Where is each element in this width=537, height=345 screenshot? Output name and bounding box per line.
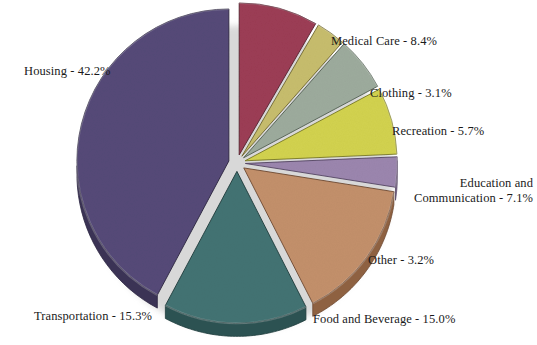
pie-label-clothing: Clothing - 3.1%: [370, 86, 452, 101]
pie-label-line: Clothing - 3.1%: [370, 86, 452, 101]
pie-label-line: Recreation - 5.7%: [392, 124, 484, 139]
pie-label-line: Transportation - 15.3%: [34, 309, 152, 324]
pie-label-education-and-communication: Education andCommunication - 7.1%: [414, 176, 533, 207]
pie-label-line: Other - 3.2%: [368, 253, 434, 268]
pie-label-line: Housing - 42.2%: [24, 64, 111, 79]
pie-label-line: Food and Beverage - 15.0%: [313, 312, 455, 327]
pie-chart-page: Medical Care - 8.4%Clothing - 3.1%Recrea…: [0, 0, 537, 345]
pie-label-food-and-beverage: Food and Beverage - 15.0%: [313, 312, 455, 327]
pie-label-line: Medical Care - 8.4%: [331, 34, 437, 49]
pie-label-recreation: Recreation - 5.7%: [392, 124, 484, 139]
pie-chart-svg: [0, 0, 537, 345]
pie-label-housing: Housing - 42.2%: [24, 64, 111, 79]
pie-label-medical-care: Medical Care - 8.4%: [331, 34, 437, 49]
pie-label-transportation: Transportation - 15.3%: [34, 309, 152, 324]
pie-label-line: Education and: [414, 176, 533, 191]
pie-label-other: Other - 3.2%: [368, 253, 434, 268]
pie-label-line: Communication - 7.1%: [414, 191, 533, 206]
